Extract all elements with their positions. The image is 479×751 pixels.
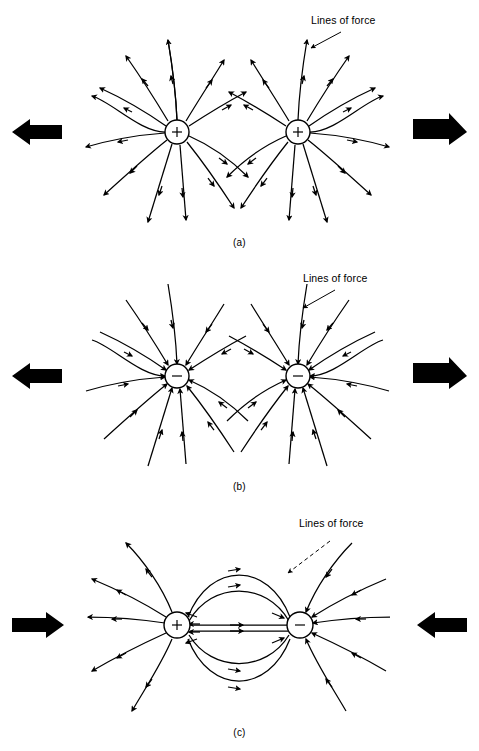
field-lines-negative-charge-c [306, 543, 390, 711]
charge-right-b [286, 364, 310, 388]
panel-caption-c: (c) [0, 727, 479, 738]
charge-left-b [165, 364, 189, 388]
force-arrow-right-b [413, 357, 467, 389]
charge-negative-c [287, 612, 313, 638]
lines-of-force-leader-a [311, 32, 341, 48]
charge-right-a [286, 120, 310, 144]
charge-positive-c [164, 612, 190, 638]
lines-of-force-label-c: Lines of force [299, 517, 363, 529]
panel-a-like-positive-charges [0, 0, 479, 258]
field-lines-positive-charge-c [88, 543, 172, 711]
panel-caption-a: (a) [0, 237, 479, 248]
force-arrow-left-c [12, 612, 64, 638]
force-arrow-left-b [12, 363, 62, 389]
force-arrow-right-a [413, 113, 467, 145]
lines-of-force-label-a: Lines of force [311, 14, 375, 26]
panel-b-like-negative-charges [0, 258, 479, 505]
force-arrow-left-a [12, 119, 62, 145]
lines-of-force-leader-b [303, 290, 335, 308]
dipole-connecting-arcs [188, 575, 290, 681]
lines-of-force-leader-c [288, 541, 330, 573]
field-line-arrowheads-negative-c [326, 569, 366, 687]
lines-of-force-label-b: Lines of force [303, 272, 367, 284]
field-line-arrowheads-positive-c [112, 569, 152, 687]
charge-left-a [165, 120, 189, 144]
force-arrow-right-c [417, 612, 467, 638]
panel-c-electric-dipole [0, 505, 479, 751]
electric-field-lines-figure: Lines of force Lines of force Lines of f… [0, 0, 479, 751]
panel-caption-b: (b) [0, 481, 479, 492]
